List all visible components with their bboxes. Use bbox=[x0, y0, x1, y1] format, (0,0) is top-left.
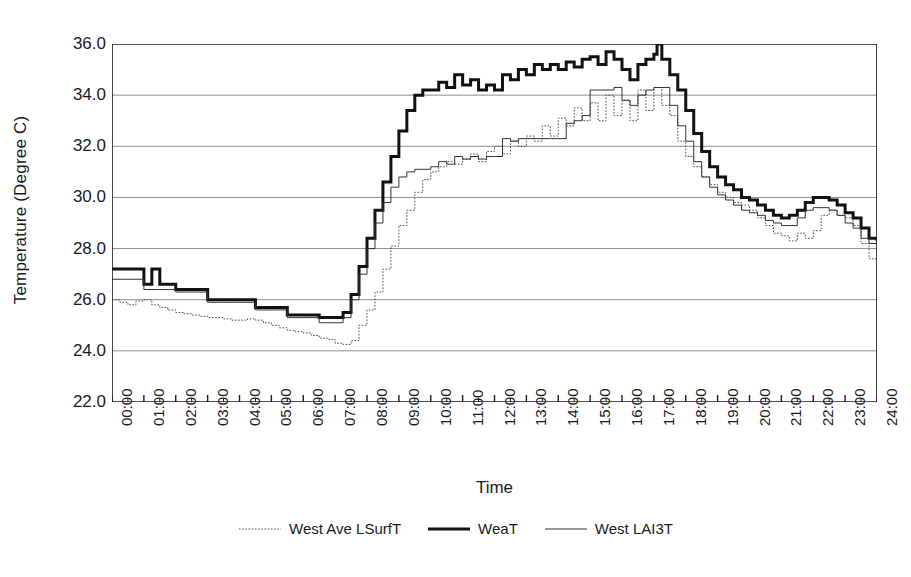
legend-item[interactable]: WeaT bbox=[427, 520, 518, 537]
chart-legend: West Ave LSurfTWeaTWest LAI3T bbox=[0, 520, 911, 537]
x-tick-label: 23:00 bbox=[852, 408, 867, 426]
x-tick-label: 22:00 bbox=[820, 408, 835, 426]
x-tick-label: 05:00 bbox=[278, 408, 293, 426]
x-axis-title-text: Time bbox=[476, 478, 513, 497]
x-tick-label: 01:00 bbox=[151, 408, 166, 426]
x-tick-label: 06:00 bbox=[310, 408, 325, 426]
y-axis-tick-labels: 36.034.032.030.028.026.024.022.0 bbox=[44, 44, 106, 402]
x-axis-title: Time bbox=[112, 478, 877, 498]
x-tick-label: 10:00 bbox=[438, 408, 453, 426]
x-tick-label: 17:00 bbox=[661, 408, 676, 426]
y-tick-label: 22.0 bbox=[48, 393, 106, 410]
plot-svg bbox=[112, 44, 877, 402]
x-tick-label: 21:00 bbox=[788, 408, 803, 426]
y-tick-label: 34.0 bbox=[48, 86, 106, 103]
y-axis-title: Temperature (Degree C) bbox=[6, 0, 36, 420]
legend-item[interactable]: West LAI3T bbox=[544, 520, 673, 537]
legend-line-swatch bbox=[427, 523, 471, 535]
x-tick-label: 13:00 bbox=[533, 408, 548, 426]
x-tick-label: 09:00 bbox=[406, 408, 421, 426]
x-tick-label: 00:00 bbox=[119, 408, 134, 426]
x-tick-label: 14:00 bbox=[565, 408, 580, 426]
plot-area bbox=[112, 44, 877, 402]
x-tick-label: 15:00 bbox=[597, 408, 612, 426]
y-tick-label: 28.0 bbox=[48, 240, 106, 257]
x-tick-label: 11:00 bbox=[470, 408, 485, 426]
y-tick-label: 32.0 bbox=[48, 137, 106, 154]
y-tick-label: 30.0 bbox=[48, 188, 106, 205]
legend-line-swatch bbox=[238, 523, 282, 535]
x-tick-label: 18:00 bbox=[693, 408, 708, 426]
legend-label: West Ave LSurfT bbox=[289, 520, 401, 537]
y-tick-label: 26.0 bbox=[48, 291, 106, 308]
series-line bbox=[112, 44, 877, 318]
x-tick-label: 19:00 bbox=[725, 408, 740, 426]
x-tick-label: 16:00 bbox=[629, 408, 644, 426]
x-tick-label: 20:00 bbox=[757, 408, 772, 426]
y-tick-label: 24.0 bbox=[48, 342, 106, 359]
chart-figure: Temperature (Degree C) 36.034.032.030.02… bbox=[0, 0, 911, 577]
legend-label: WeaT bbox=[478, 520, 518, 537]
series-line bbox=[112, 87, 877, 344]
x-tick-label: 04:00 bbox=[247, 408, 262, 426]
axis-frame bbox=[112, 44, 877, 402]
x-tick-label: 07:00 bbox=[342, 408, 357, 426]
legend-label: West LAI3T bbox=[595, 520, 673, 537]
y-tick-label: 36.0 bbox=[48, 35, 106, 52]
x-tick-label: 12:00 bbox=[502, 408, 517, 426]
x-tick-label: 24:00 bbox=[884, 408, 899, 426]
y-axis-title-text: Temperature (Degree C) bbox=[11, 116, 31, 305]
x-tick-label: 03:00 bbox=[215, 408, 230, 426]
plot-frame bbox=[112, 44, 877, 402]
legend-item[interactable]: West Ave LSurfT bbox=[238, 520, 401, 537]
x-tick-label: 08:00 bbox=[374, 408, 389, 426]
x-tick-label: 02:00 bbox=[183, 408, 198, 426]
legend-line-swatch bbox=[544, 523, 588, 535]
